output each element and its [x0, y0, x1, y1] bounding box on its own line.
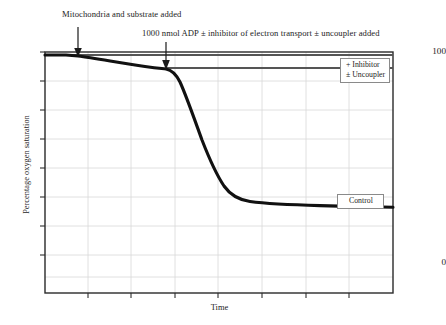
axis-ticks — [40, 52, 349, 298]
grid-lines-vertical — [88, 52, 349, 293]
figure-container: Mitochondria and substrate added 1000 nm… — [0, 0, 446, 325]
legend-inhibitor-uncoupler: + Inhibitor ± Uncoupler — [340, 58, 390, 83]
plot-area — [0, 0, 446, 325]
legend-inhibitor-line2: ± Uncoupler — [346, 70, 385, 80]
legend-inhibitor-line1: + Inhibitor — [346, 60, 385, 70]
legend-control: Control — [337, 194, 384, 209]
legend-control-label: Control — [349, 196, 373, 206]
axis-frame — [45, 52, 393, 293]
